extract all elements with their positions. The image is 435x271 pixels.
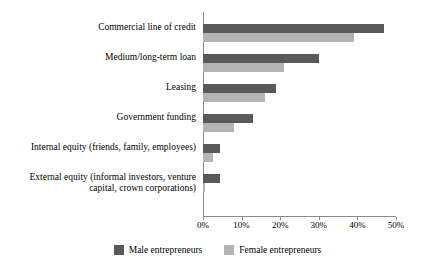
category-label: External equity (informal investors, ven… [0,172,196,193]
category-label: Leasing [0,82,196,93]
bar-male [203,24,384,33]
x-axis-tick-label: 50% [379,220,413,231]
bar-male [203,84,276,93]
category-label: Commercial line of credit [0,22,196,33]
x-axis-tick-label: 20% [263,220,297,231]
legend-item[interactable]: Male entrepreneurs [114,245,203,256]
plot-area: Commercial line of creditMedium/long-ter… [0,0,435,232]
bar-female [203,63,284,72]
x-axis-tick-label: 40% [340,220,374,231]
bar-female [203,33,354,42]
category-label: Government funding [0,112,196,123]
category-label: Internal equity (friends, family, employ… [0,142,196,153]
x-axis-tick-label: 0% [186,220,220,231]
bar-male [203,144,220,153]
legend-swatch-icon [114,245,124,255]
legend-item[interactable]: Female entrepreneurs [224,245,321,256]
bar-chart: Commercial line of creditMedium/long-ter… [0,0,435,271]
bar-female [203,153,213,162]
bar-male [203,114,253,123]
chart-legend: Male entrepreneursFemale entrepreneurs [0,240,435,260]
legend-label: Female entrepreneurs [239,245,321,256]
bar-male [203,54,319,63]
x-axis-tick-label: 10% [225,220,259,231]
bars-layer [203,12,435,217]
bar-female [203,93,265,102]
x-axis-tick-label: 30% [302,220,336,231]
bar-female [203,183,205,192]
legend-label: Male entrepreneurs [129,245,203,256]
category-label: Medium/long-term loan [0,52,196,63]
bar-female [203,123,234,132]
bar-male [203,174,220,183]
legend-swatch-icon [224,245,234,255]
